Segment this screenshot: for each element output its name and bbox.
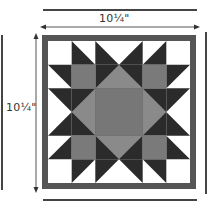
- height-dimension-arrow: [32, 33, 40, 193]
- bottom-strip: [43, 199, 197, 201]
- quilt-block: [42, 35, 196, 189]
- right-strip: [205, 32, 207, 194]
- top-strip: [43, 9, 197, 11]
- width-dimension-arrow: [40, 23, 200, 31]
- left-strip: [1, 35, 3, 190]
- center-square: [95, 88, 142, 135]
